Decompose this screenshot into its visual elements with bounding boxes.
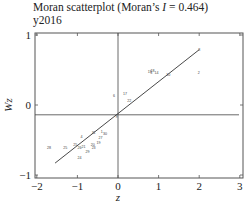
data-point-label: 15 <box>148 70 152 74</box>
data-point-label: 9 <box>115 115 117 119</box>
data-point-label: 31 <box>92 131 96 135</box>
data-point-label: 29 <box>86 150 90 154</box>
data-point-label: 30 <box>103 132 107 136</box>
data-point-label: 4 <box>80 135 82 139</box>
x-tick-label: −1 <box>72 180 84 192</box>
x-tick-label: 3 <box>237 180 243 192</box>
x-tick-label: −2 <box>31 180 43 192</box>
data-point-label: 10 <box>166 73 170 77</box>
x-tick-label: 1 <box>156 180 162 192</box>
y-axis-title: Wz <box>2 98 14 112</box>
data-point-label: 2 <box>198 71 200 75</box>
data-point-label: 19 <box>97 141 101 145</box>
data-point-label: 17 <box>123 92 127 96</box>
data-point-label: 25 <box>73 143 77 147</box>
y-tick-label: 1 <box>26 29 32 41</box>
data-point-label: 25 <box>63 146 67 150</box>
plot-frame <box>35 33 243 178</box>
data-point-label: 28 <box>47 146 51 150</box>
data-point-label: 23 <box>92 146 96 150</box>
data-point-label: 21 <box>81 145 85 149</box>
data-point-label: 22 <box>127 99 131 103</box>
data-point-label: 14 <box>155 71 159 75</box>
y-tick-label: −1 <box>19 169 31 181</box>
data-point-label: 8 <box>198 48 200 52</box>
data-point-label: 27 <box>99 136 103 140</box>
x-tick-label: 2 <box>196 180 202 192</box>
data-point-label: 26 <box>77 146 81 150</box>
x-axis-title: z <box>115 191 121 203</box>
y-tick-label: 0 <box>26 99 32 111</box>
data-point-label: 24 <box>77 156 81 160</box>
scatter-plot: −2−10123−101zWz8210141851517226913130271… <box>0 0 247 205</box>
data-point-label: 6 <box>113 94 115 98</box>
